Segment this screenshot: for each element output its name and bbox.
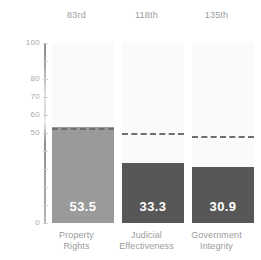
y-tick-mark-80 — [43, 79, 48, 80]
y-tick-mark-40 — [43, 151, 48, 152]
y-tick-30 — [8, 164, 48, 174]
plot-area: 100807060500 53.533.330.9 — [0, 28, 261, 228]
y-tick-mark-30 — [43, 169, 48, 170]
bar-property-rights: 53.5 — [52, 127, 114, 223]
y-tick-label-80: 80 — [31, 74, 41, 84]
category-label-property-rights: Property Rights — [39, 230, 114, 252]
bar-chart: 83rd 118th 135th 100807060500 53.533.330… — [0, 0, 261, 260]
category-label-row: Property Rights Judicial Effectiveness G… — [40, 230, 261, 258]
bar-value-label-judicial-effectiveness: 33.3 — [122, 199, 184, 214]
y-tick-mark-10 — [43, 205, 48, 206]
reference-line-judicial-effectiveness — [122, 133, 184, 135]
bar-value-label-government-integrity: 30.9 — [192, 199, 254, 214]
category-label-government-integrity: Government Integrity — [179, 230, 254, 252]
y-tick-70: 70 — [8, 92, 48, 102]
y-tick-90 — [8, 56, 48, 66]
y-tick-20 — [8, 182, 48, 192]
rank-label-judicial-effectiveness: 118th — [110, 6, 183, 24]
y-tick-mark-60 — [43, 115, 48, 116]
y-tick-mark-90 — [43, 61, 48, 62]
bar-judicial-effectiveness: 33.3 — [122, 163, 184, 223]
category-label-judicial-effectiveness: Judicial Effectiveness — [109, 230, 184, 252]
rank-label-property-rights: 83rd — [40, 6, 113, 24]
y-tick-label-60: 60 — [31, 110, 41, 120]
y-tick-label-100: 100 — [26, 38, 40, 48]
y-tick-60: 60 — [8, 110, 48, 120]
y-tick-mark-100 — [43, 43, 48, 44]
y-tick-label-0: 0 — [35, 218, 40, 228]
y-tick-10 — [8, 200, 48, 210]
y-tick-mark-70 — [43, 97, 48, 98]
y-tick-label-70: 70 — [31, 92, 41, 102]
y-tick-label-50: 50 — [31, 128, 41, 138]
y-tick-0: 0 — [8, 218, 48, 228]
y-tick-100: 100 — [8, 38, 48, 48]
y-tick-80: 80 — [8, 74, 48, 84]
reference-line-property-rights — [52, 128, 114, 130]
bar-government-integrity: 30.9 — [192, 167, 254, 223]
reference-line-government-integrity — [192, 136, 254, 138]
y-tick-mark-20 — [43, 187, 48, 188]
y-tick-50: 50 — [8, 128, 48, 138]
rank-label-government-integrity: 135th — [180, 6, 253, 24]
bar-value-label-property-rights: 53.5 — [52, 199, 114, 214]
y-tick-40 — [8, 146, 48, 156]
y-tick-mark-50 — [43, 133, 48, 134]
rank-label-row: 83rd 118th 135th — [40, 6, 261, 24]
y-tick-mark-0 — [43, 223, 48, 224]
